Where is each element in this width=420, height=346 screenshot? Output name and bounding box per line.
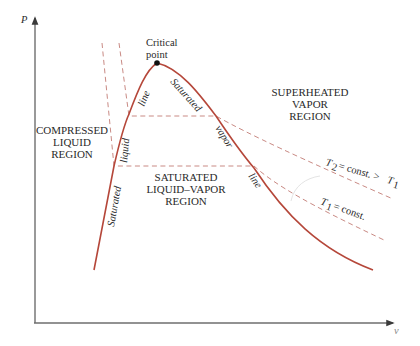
region-label: COMPRESSED bbox=[36, 124, 108, 136]
pv-diagram: P v Critical point COMPRESSED LIQUID REG… bbox=[0, 0, 420, 346]
critical-point-label-line2: point bbox=[146, 49, 168, 60]
x-axis-label: v bbox=[394, 325, 399, 336]
t2-text: = const. > bbox=[335, 159, 383, 183]
y-axis-label: P bbox=[20, 14, 28, 25]
region-compressed-liquid: COMPRESSED LIQUID REGION bbox=[36, 124, 108, 160]
sat-vapor-label-lower: line bbox=[246, 171, 264, 190]
sat-vapor-label-mid: vapor bbox=[213, 123, 236, 150]
region-label: VAPOR bbox=[292, 98, 329, 110]
critical-point-label-line1: Critical bbox=[146, 37, 178, 48]
t1-text: = const. bbox=[330, 199, 368, 222]
region-label: LIQUID–VAPOR bbox=[146, 183, 226, 195]
region-label: REGION bbox=[51, 148, 93, 160]
sat-liquid-label-lower: Saturated bbox=[105, 184, 123, 227]
critical-point-marker bbox=[154, 60, 160, 66]
sat-liquid-label-mid: liquid bbox=[118, 137, 131, 163]
region-label: SATURATED bbox=[155, 171, 218, 183]
faint-arc bbox=[291, 176, 320, 201]
region-label: REGION bbox=[289, 110, 331, 122]
region-saturated-mixture: SATURATED LIQUID–VAPOR REGION bbox=[146, 171, 226, 207]
region-label: REGION bbox=[165, 195, 207, 207]
region-superheated-vapor: SUPERHEATED VAPOR REGION bbox=[271, 86, 348, 122]
region-label: SUPERHEATED bbox=[271, 86, 348, 98]
region-label: LIQUID bbox=[53, 136, 91, 148]
